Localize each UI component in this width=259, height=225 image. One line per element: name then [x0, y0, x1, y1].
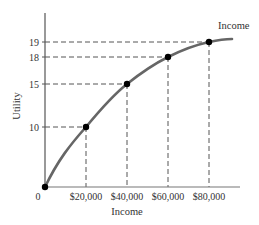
y-axis-title: Utility — [11, 92, 22, 120]
curve-label: Income — [218, 20, 250, 31]
x-tick-label-20000: $20,000 — [70, 191, 103, 202]
point-80000 — [206, 39, 212, 45]
y-tick-label-10: 10 — [29, 122, 39, 133]
point-60000 — [165, 54, 171, 60]
utility-curve — [45, 39, 232, 187]
y-tick-label-19: 19 — [29, 37, 39, 48]
x-axis-title: Income — [111, 206, 143, 217]
y-tick-label-18: 18 — [29, 52, 39, 63]
guide-lines — [45, 42, 209, 187]
point-40000 — [124, 81, 130, 87]
point-0 — [42, 184, 48, 190]
utility-chart: 10 15 18 19 0 $20,000 $40,000 $60,000 $8… — [0, 0, 259, 225]
x-tick-label-80000: $80,000 — [193, 191, 226, 202]
x-tick-label-60000: $60,000 — [152, 191, 185, 202]
y-tick-label-15: 15 — [29, 79, 39, 90]
origin-label: 0 — [36, 191, 41, 202]
point-20000 — [83, 124, 89, 130]
x-tick-label-40000: $40,000 — [111, 191, 144, 202]
